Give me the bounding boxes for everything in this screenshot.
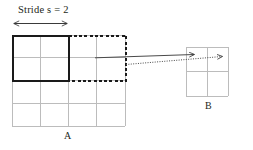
- stride-convolution-diagram: Stride s = 2 A B: [0, 0, 253, 150]
- diagram-vector-layer: [0, 0, 253, 150]
- input-grid-a: [12, 35, 126, 126]
- connector-dashed-window-to-output: [126, 57, 222, 65]
- connector-solid-window-to-output: [95, 55, 194, 58]
